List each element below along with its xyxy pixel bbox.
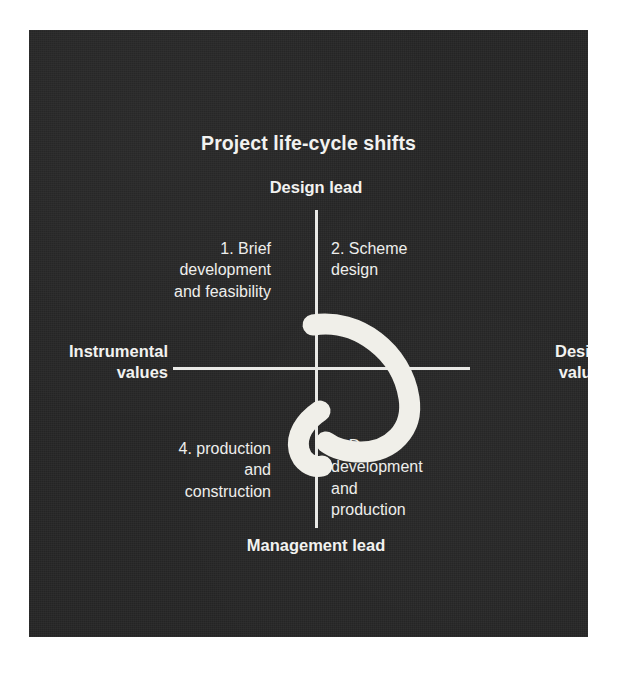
page-title: Project life-cycle shifts (29, 132, 588, 155)
axis-label-design-values: Design values (480, 341, 588, 382)
axis-label-management-lead: Management lead (181, 535, 451, 556)
quadrant-label-1-brief-development: 1. Brief development and feasibility (65, 238, 271, 302)
spiral-outer-stroke (313, 324, 410, 452)
axis-label-instrumental-values: Instrumental values (29, 341, 168, 382)
quadrant-label-2-scheme-design: 2. Scheme design (331, 238, 541, 281)
quadrant-label-4-production-construction: 4. production and construction (65, 438, 271, 502)
axis-label-design-lead: Design lead (196, 177, 436, 198)
figure-root: Project life-cycle shifts Design lead Ma… (0, 0, 617, 674)
diagram-panel: Project life-cycle shifts Design lead Ma… (29, 30, 588, 637)
quadrant-label-3-design-development: 3. Design development and production (331, 435, 541, 521)
horizontal-axis-line (173, 367, 470, 370)
spiral-inner-hook-stroke (298, 411, 322, 466)
